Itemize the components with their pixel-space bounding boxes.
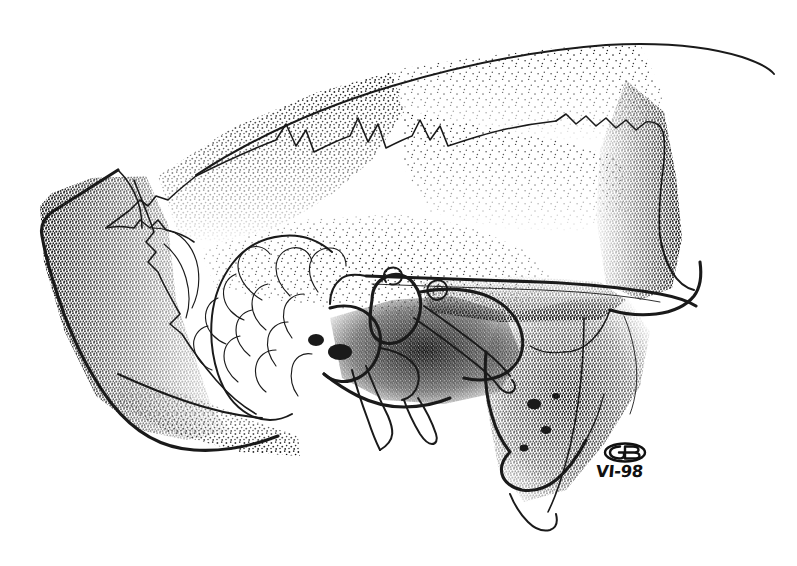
illustration-canvas: VI-98 [0,0,797,566]
artist-monogram-icon [603,442,647,463]
basicranial-dark-notch-1 [328,344,352,360]
skull-lateral-view-drawing [0,0,797,566]
foramen-mark-1 [527,399,541,409]
artist-signature: VI-98 [596,442,662,486]
foramen-mark-3 [520,445,529,452]
foramen-mark-4 [552,393,560,399]
basicranial-dark-notch-2 [308,334,324,346]
signature-date-label: VI-98 [595,464,662,481]
foramen-mark-2 [541,426,551,434]
